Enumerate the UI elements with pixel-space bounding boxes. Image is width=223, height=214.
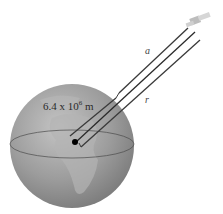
center-to-satellite-line <box>76 32 195 142</box>
satellite-icon <box>186 12 211 27</box>
label-r: r <box>145 94 149 105</box>
diagram-canvas: 6.4 x 106 m a r <box>0 0 223 214</box>
label-a: a <box>145 45 150 56</box>
earth-radius-label: 6.4 x 106 m <box>43 99 94 112</box>
earth-center-dot <box>72 139 78 145</box>
diagram-graphics <box>0 0 223 214</box>
